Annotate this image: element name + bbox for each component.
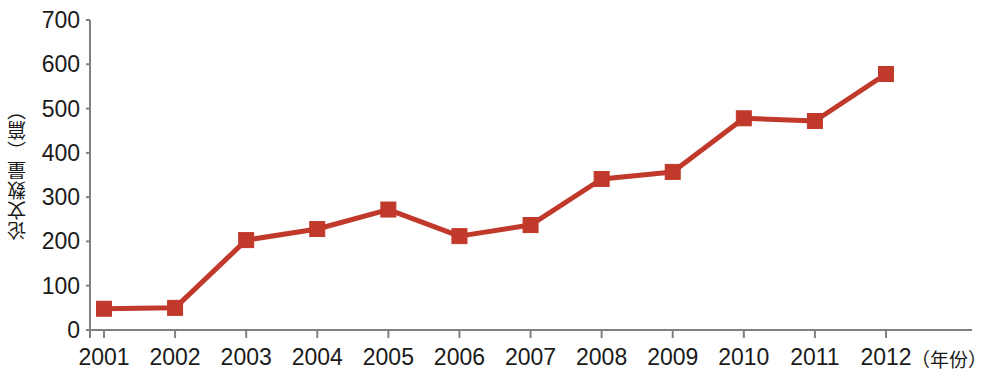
x-axis-tick-label: 2001 [78, 344, 129, 371]
y-axis-tick-labels: 0100200300400500600700 [34, 0, 86, 378]
data-point-marker [310, 222, 325, 237]
y-axis-title-text: 论文数量（篇） [8, 100, 27, 240]
y-axis-tick-label: 100 [42, 272, 80, 299]
y-axis-tick-label: 700 [42, 7, 80, 34]
data-point-markers [97, 67, 894, 317]
x-axis-tick-labels: （年份） 20012002200320042005200620072008200… [0, 344, 993, 378]
y-axis-tick-label: 300 [42, 184, 80, 211]
data-series-line [104, 74, 886, 309]
x-axis-tick-label: 2008 [576, 344, 627, 371]
x-axis-tick-label: 2011 [790, 344, 839, 371]
x-axis-tick-label: 2009 [647, 344, 698, 371]
line-chart: 论文数量（篇） 0100200300400500600700 （年份） 2001… [0, 0, 993, 378]
data-point-marker [807, 113, 822, 128]
x-axis-tick-label: 2002 [149, 344, 200, 371]
plot-area [86, 12, 976, 342]
data-point-marker [381, 202, 396, 217]
axis-lines [86, 20, 972, 338]
y-axis-tick-label: 0 [67, 317, 80, 344]
data-point-marker [879, 67, 894, 82]
x-axis-tick-label: 2003 [221, 344, 272, 371]
y-axis-tick-label: 500 [42, 95, 80, 122]
y-axis-title: 论文数量（篇） [0, 0, 34, 340]
data-point-marker [594, 171, 609, 186]
data-point-marker [523, 218, 538, 233]
data-point-marker [736, 111, 751, 126]
x-axis-tick-label: 2005 [363, 344, 414, 371]
data-point-marker [239, 233, 254, 248]
x-axis-tick-label: 2010 [718, 344, 769, 371]
data-point-marker [452, 229, 467, 244]
x-axis-title-text: （年份） [911, 345, 987, 372]
data-point-marker [168, 300, 183, 315]
y-axis-tick-label: 200 [42, 228, 80, 255]
y-axis-tick-label: 600 [42, 51, 80, 78]
y-axis-tick-label: 400 [42, 139, 80, 166]
data-point-marker [665, 164, 680, 179]
x-axis-tick-label: 2006 [434, 344, 485, 371]
x-axis-tick-label: 2007 [505, 344, 556, 371]
data-point-marker [97, 301, 112, 316]
x-axis-tick-label: 2004 [292, 344, 343, 371]
x-axis-tick-label: 2012 [860, 344, 911, 371]
plot-svg [86, 12, 976, 342]
